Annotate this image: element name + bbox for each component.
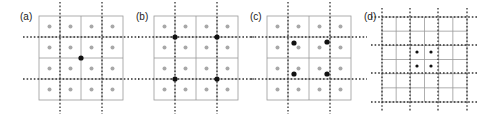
gray-dot	[48, 46, 52, 50]
gray-dot	[48, 67, 52, 71]
gray-dot	[90, 67, 94, 71]
black-dots	[78, 55, 83, 60]
gray-dot	[226, 67, 230, 71]
gray-dot	[339, 67, 343, 71]
black-dot	[429, 50, 432, 53]
gray-dot	[90, 46, 94, 50]
black-dot	[415, 64, 418, 67]
black-dot	[429, 64, 432, 67]
black-dot	[415, 50, 418, 53]
gray-dot	[205, 46, 209, 50]
grid-lines	[267, 16, 351, 100]
black-dot	[214, 76, 219, 81]
gray-dot	[226, 25, 230, 29]
gray-dot	[69, 67, 73, 71]
gray-dot	[318, 25, 322, 29]
panel-label: (b)	[136, 11, 148, 22]
gray-dot	[111, 25, 115, 29]
gray-dot	[163, 88, 167, 92]
black-dot	[214, 34, 219, 39]
grid-lines	[154, 16, 238, 100]
panel-label: (c)	[250, 11, 262, 22]
gray-dot	[297, 25, 301, 29]
gray-dot	[184, 88, 188, 92]
gray-dot	[69, 46, 73, 50]
gray-dot	[276, 25, 280, 29]
gray-dot	[297, 46, 301, 50]
gray-dot	[339, 25, 343, 29]
panel-c: (c)	[250, 2, 367, 114]
gray-dot	[226, 46, 230, 50]
gray-dot	[163, 67, 167, 71]
gray-dot	[276, 88, 280, 92]
gray-dot	[184, 67, 188, 71]
gray-dot	[184, 25, 188, 29]
panel-label: (d)	[364, 11, 376, 22]
gray-dot	[318, 67, 322, 71]
gray-dot	[318, 46, 322, 50]
grid-lines	[382, 17, 467, 102]
black-dots	[415, 50, 432, 67]
gray-dot	[90, 88, 94, 92]
gray-dot	[69, 25, 73, 29]
gray-dot	[111, 88, 115, 92]
gray-dot	[163, 46, 167, 50]
gray-dot	[297, 88, 301, 92]
gray-dot	[48, 88, 52, 92]
gray-dot	[318, 88, 322, 92]
gray-dot	[163, 25, 167, 29]
gray-dot	[111, 46, 115, 50]
gray-dot	[69, 88, 73, 92]
figure-canvas: (a) (b) (c) (d)	[0, 0, 496, 118]
black-dot	[291, 40, 296, 45]
gray-dot	[111, 67, 115, 71]
gray-dot	[184, 46, 188, 50]
black-dot	[324, 71, 329, 76]
black-dot	[291, 71, 296, 76]
black-dot	[172, 34, 177, 39]
panel-b: (b)	[136, 2, 254, 114]
gray-dot	[276, 67, 280, 71]
black-dot	[324, 39, 329, 44]
gray-dot	[276, 46, 280, 50]
panel-d: (d)	[364, 8, 478, 111]
gray-dot	[226, 88, 230, 92]
gray-dot	[205, 67, 209, 71]
gray-dot	[339, 46, 343, 50]
gray-dot	[339, 88, 343, 92]
black-dot	[172, 76, 177, 81]
gray-dot	[205, 25, 209, 29]
gray-dot	[297, 67, 301, 71]
gray-dot	[90, 25, 94, 29]
panel-a: (a)	[20, 2, 139, 114]
gray-dot	[205, 88, 209, 92]
panel-label: (a)	[20, 11, 32, 22]
black-dot	[78, 55, 83, 60]
gray-dot	[48, 25, 52, 29]
